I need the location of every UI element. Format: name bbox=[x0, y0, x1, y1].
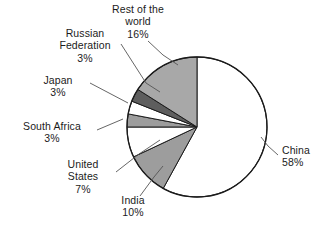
pie-label-china-line1: China bbox=[282, 144, 334, 156]
pie-label-united-states: United States 7% bbox=[44, 158, 122, 195]
pie-label-south-africa-line1: South Africa bbox=[2, 120, 102, 132]
pie-label-rest-of-the-world-line2: world bbox=[95, 15, 181, 27]
pie-label-india-value: 10% bbox=[100, 206, 166, 218]
pie-label-china: China 58% bbox=[282, 144, 334, 169]
pie-label-rest-of-the-world-line1: Rest of the bbox=[95, 3, 181, 15]
pie-label-south-africa-value: 3% bbox=[2, 132, 102, 144]
pie-label-united-states-line1: United bbox=[44, 158, 122, 170]
pie-label-russian-federation-line2: Federation bbox=[40, 39, 130, 51]
pie-label-russian-federation-line1: Russian bbox=[40, 27, 130, 39]
pie-label-south-africa: South Africa 3% bbox=[2, 120, 102, 145]
pie-label-russian-federation-value: 3% bbox=[40, 52, 130, 64]
pie-label-india: India 10% bbox=[100, 194, 166, 219]
pie-label-india-line1: India bbox=[100, 194, 166, 206]
pie-label-china-value: 58% bbox=[282, 156, 334, 168]
pie-label-japan-line1: Japan bbox=[20, 74, 96, 86]
pie-label-russian-federation: Russian Federation 3% bbox=[40, 27, 130, 64]
pie-label-japan: Japan 3% bbox=[20, 74, 96, 99]
pie-chart-figure: Rest of the world 16% Russian Federation… bbox=[0, 0, 336, 229]
pie-label-united-states-line2: States bbox=[44, 170, 122, 182]
pie-label-japan-value: 3% bbox=[20, 86, 96, 98]
pie-slice-group bbox=[127, 57, 267, 197]
